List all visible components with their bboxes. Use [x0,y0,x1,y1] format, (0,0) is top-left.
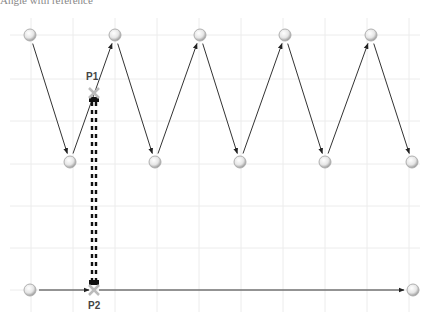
zigzag-edge [158,43,197,153]
node-circle[interactable] [24,29,36,41]
nodes [24,29,419,296]
node-circle[interactable] [279,29,291,41]
node-circle[interactable] [407,284,419,296]
node-circle[interactable] [64,156,76,168]
zigzag-edge [243,43,282,153]
dashed-connector [89,97,99,285]
zigzag-edge [118,44,153,154]
zigzag-edge [288,44,323,154]
zigzag-edge [374,44,409,154]
node-circle[interactable] [109,29,121,41]
zigzag-edge [203,44,238,154]
node-circle[interactable] [406,156,418,168]
zigzag-edge [33,44,68,154]
node-circle[interactable] [194,29,206,41]
node-circle[interactable] [24,284,36,296]
node-circle[interactable] [234,156,246,168]
point-label: P1 [86,71,99,82]
zigzag-edge [328,43,368,153]
diagram-canvas: P1P2 [0,0,428,321]
point-p2[interactable]: P2 [88,285,101,311]
p2-handle[interactable] [89,280,99,285]
node-circle[interactable] [365,29,377,41]
point-label: P2 [88,300,101,311]
node-circle[interactable] [319,156,331,168]
reference-points: P1P2 [86,71,101,311]
node-circle[interactable] [149,156,161,168]
